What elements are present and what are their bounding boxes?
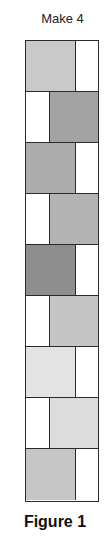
blank-brick [26,296,50,346]
shaded-brick [50,92,98,142]
shaded-brick [50,194,98,244]
blank-brick [76,449,98,500]
shaded-brick [26,449,76,500]
shaded-brick [50,398,98,448]
brick-row [26,143,98,194]
shaded-brick [50,296,98,346]
brick-row [26,347,98,398]
figure-caption: Figure 1 [0,512,110,532]
brick-row [26,194,98,245]
shaded-brick [26,41,76,91]
diagram-title: Make 4 [25,11,100,27]
brick-row [26,245,98,296]
shaded-brick [26,143,76,193]
brick-row [26,41,98,92]
blank-brick [76,245,98,295]
shaded-brick [26,245,76,295]
blank-brick [76,41,98,91]
blank-brick [26,92,50,142]
shaded-brick [26,347,76,397]
blank-brick [76,347,98,397]
blank-brick [76,143,98,193]
blank-brick [26,194,50,244]
brick-row [26,92,98,143]
brick-row [26,296,98,347]
brick-row [26,449,98,500]
brick-strip [25,40,99,502]
blank-brick [26,398,50,448]
brick-row [26,398,98,449]
